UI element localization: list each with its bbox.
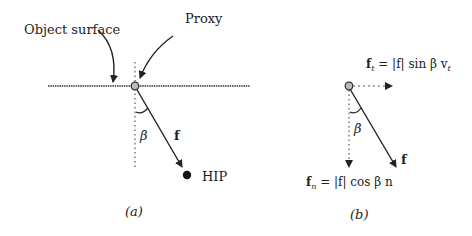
proxy-point	[131, 82, 139, 90]
tangent-force-equation: ft = |f| sin β vt	[366, 58, 451, 73]
panel-a	[48, 30, 250, 179]
normal-force-equation: fn = |f| cos β n	[306, 176, 393, 191]
panel-b	[345, 82, 396, 167]
hip-point	[183, 171, 191, 179]
object-surface-pointer-arrow	[98, 30, 114, 82]
object-surface-label: Object surface	[24, 23, 120, 36]
caption-b: (b)	[350, 208, 368, 221]
proxy-label: Proxy	[185, 12, 222, 25]
angle-label-b: β	[354, 122, 362, 135]
caption-a: (a)	[125, 205, 143, 218]
angle-arc	[136, 108, 148, 113]
force-label-b: f	[401, 153, 407, 166]
proxy-point-b	[345, 82, 353, 90]
angle-arc-b	[350, 108, 361, 113]
ft-rhs: = |f| sin β v	[378, 57, 447, 71]
fn-rhs: = |f| cos β n	[320, 175, 393, 189]
hip-label: HIP	[202, 170, 227, 183]
fn-lhs-sub: n	[311, 182, 316, 191]
force-label-a: f	[174, 129, 180, 142]
ft-rhs-sub: t	[448, 64, 451, 73]
angle-label-a: β	[140, 129, 148, 142]
proxy-pointer-arrow	[140, 36, 173, 78]
ft-lhs-sub: t	[371, 64, 374, 73]
